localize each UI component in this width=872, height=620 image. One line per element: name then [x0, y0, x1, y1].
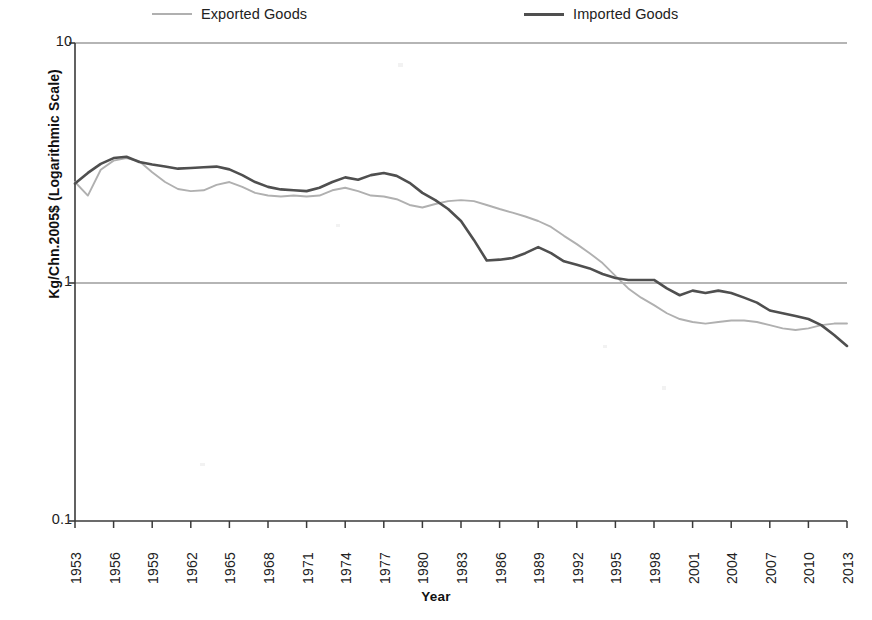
- x-tick-label-1962: 1962: [184, 528, 198, 584]
- x-tick-label-1992: 1992: [570, 528, 584, 584]
- series-line-imported-goods: [75, 157, 847, 346]
- x-tick-label-1974: 1974: [338, 528, 352, 584]
- scan-speck: [200, 463, 205, 466]
- axis-layer: [69, 43, 847, 528]
- series-line-exported-goods: [75, 158, 847, 330]
- x-tick-label-1977: 1977: [377, 528, 391, 584]
- series-layer: [75, 157, 847, 346]
- x-tick-label-1980: 1980: [415, 528, 429, 584]
- x-tick-label-1986: 1986: [493, 528, 507, 584]
- y-tick-label-1: 1: [12, 273, 72, 289]
- x-tick-label-2007: 2007: [763, 528, 777, 584]
- x-tick-label-1956: 1956: [107, 528, 121, 584]
- x-tick-label-1968: 1968: [261, 528, 275, 584]
- x-tick-label-1965: 1965: [222, 528, 236, 584]
- chart-container: Exported Goods Imported Goods Kg/Chn.200…: [0, 0, 872, 620]
- x-axis-title: Year: [0, 589, 872, 604]
- x-tick-label-1959: 1959: [145, 528, 159, 584]
- x-tick-label-2013: 2013: [840, 528, 854, 584]
- x-tick-label-2001: 2001: [686, 528, 700, 584]
- scan-speck: [603, 345, 607, 348]
- x-tick-label-2004: 2004: [724, 528, 738, 584]
- x-tick-label-1953: 1953: [68, 528, 82, 584]
- y-axis-title: Kg/Chn.2005$ (Logarithmic Scale): [46, 34, 62, 334]
- scan-speck: [398, 63, 403, 67]
- x-tick-label-1989: 1989: [531, 528, 545, 584]
- x-tick-label-2010: 2010: [801, 528, 815, 584]
- y-tick-label-0-1: 0.1: [12, 511, 72, 527]
- x-tick-label-1971: 1971: [300, 528, 314, 584]
- x-tick-label-1995: 1995: [608, 528, 622, 584]
- scan-speck: [336, 224, 340, 227]
- x-tick-label-1998: 1998: [647, 528, 661, 584]
- x-tick-labels: 1953195619591962196519681971197419771980…: [0, 528, 872, 586]
- x-tick-label-1983: 1983: [454, 528, 468, 584]
- plot-area: [0, 0, 872, 620]
- y-tick-label-10: 10: [12, 33, 72, 49]
- scan-speck: [662, 386, 666, 390]
